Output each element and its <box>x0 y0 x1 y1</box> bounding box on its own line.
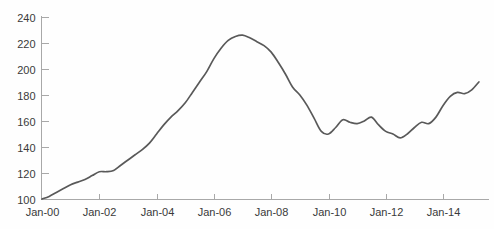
y-tick-label: 220 <box>17 38 35 50</box>
chart-canvas: 100120140160180200220240 Jan-00Jan-02Jan… <box>0 0 494 229</box>
y-tick-label: 100 <box>17 194 35 206</box>
x-axis-ticks: Jan-00Jan-02Jan-04Jan-06Jan-08Jan-10Jan-… <box>26 194 461 218</box>
y-tick-label: 120 <box>17 168 35 180</box>
y-tick-label: 140 <box>17 142 35 154</box>
x-tick-label: Jan-10 <box>313 206 347 218</box>
x-tick-label: Jan-08 <box>255 206 289 218</box>
x-tick-label: Jan-12 <box>370 206 404 218</box>
x-tick-label: Jan-04 <box>141 206 175 218</box>
y-tick-label: 240 <box>17 12 35 24</box>
y-tick-label: 160 <box>17 116 35 128</box>
x-tick-label: Jan-02 <box>83 206 117 218</box>
x-tick-label: Jan-06 <box>198 206 232 218</box>
data-series-line <box>42 35 479 199</box>
y-axis-ticks: 100120140160180200220240 <box>17 12 48 206</box>
x-tick-label: Jan-00 <box>26 206 60 218</box>
x-tick-label: Jan-14 <box>427 206 461 218</box>
y-tick-label: 180 <box>17 90 35 102</box>
y-tick-label: 200 <box>17 64 35 76</box>
line-chart: 100120140160180200220240 Jan-00Jan-02Jan… <box>0 0 494 229</box>
